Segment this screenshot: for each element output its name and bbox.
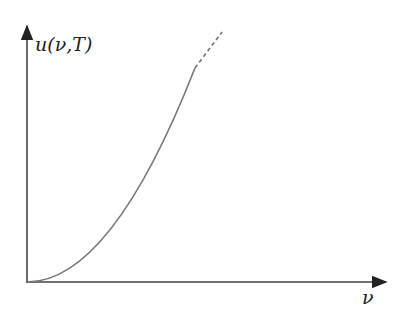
x-axis-label: ν: [362, 286, 374, 308]
curve-dashed: [195, 32, 222, 68]
y-axis-label: u(ν,T): [35, 33, 92, 55]
curve-solid: [27, 68, 195, 282]
